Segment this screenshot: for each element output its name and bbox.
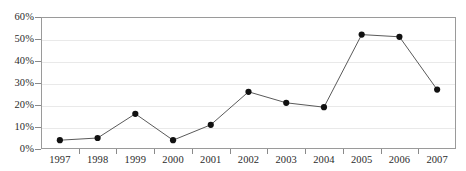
plot-area [41,17,456,149]
y-tick-mark-50 [35,39,41,40]
gridline-10 [42,128,455,129]
x-tick-label-1997: 1997 [49,154,70,166]
y-axis: 0%10%20%30%40%50%60% [0,0,34,171]
x-tick-mark-4 [192,149,193,154]
y-tick-label-30: 30% [0,77,34,88]
gridline-20 [42,106,455,107]
x-tick-label-1998: 1998 [87,154,108,166]
x-axis: 1997199819992000200120022003200420052006… [41,152,456,171]
y-tick-mark-10 [35,127,41,128]
y-tick-label-10: 10% [0,121,34,132]
y-tick-mark-30 [35,83,41,84]
y-tick-mark-60 [35,17,41,18]
y-tick-label-40: 40% [0,55,34,66]
x-tick-mark-6 [267,149,268,154]
gridline-50 [42,40,455,41]
y-tick-label-20: 20% [0,99,34,110]
x-tick-label-2003: 2003 [276,154,297,166]
x-tick-mark-1 [79,149,80,154]
x-tick-label-2005: 2005 [351,154,372,166]
line-chart: 0%10%20%30%40%50%60% 1997199819992000200… [0,0,466,171]
x-tick-mark-8 [343,149,344,154]
x-tick-mark-2 [116,149,117,154]
x-tick-mark-9 [381,149,382,154]
x-tick-label-2007: 2007 [426,154,447,166]
x-tick-mark-7 [305,149,306,154]
gridline-40 [42,62,455,63]
y-tick-label-60: 60% [0,11,34,22]
x-tick-label-2001: 2001 [200,154,221,166]
x-tick-label-2000: 2000 [162,154,183,166]
x-tick-label-1999: 1999 [125,154,146,166]
x-tick-mark-10 [418,149,419,154]
x-tick-label-2002: 2002 [238,154,259,166]
x-tick-mark-5 [230,149,231,154]
y-tick-label-50: 50% [0,33,34,44]
x-tick-mark-3 [154,149,155,154]
y-tick-mark-20 [35,105,41,106]
y-tick-mark-0 [35,149,41,150]
x-tick-label-2006: 2006 [389,154,410,166]
x-tick-label-2004: 2004 [313,154,334,166]
y-tick-mark-40 [35,61,41,62]
y-tick-label-0: 0% [0,143,34,154]
gridline-30 [42,84,455,85]
